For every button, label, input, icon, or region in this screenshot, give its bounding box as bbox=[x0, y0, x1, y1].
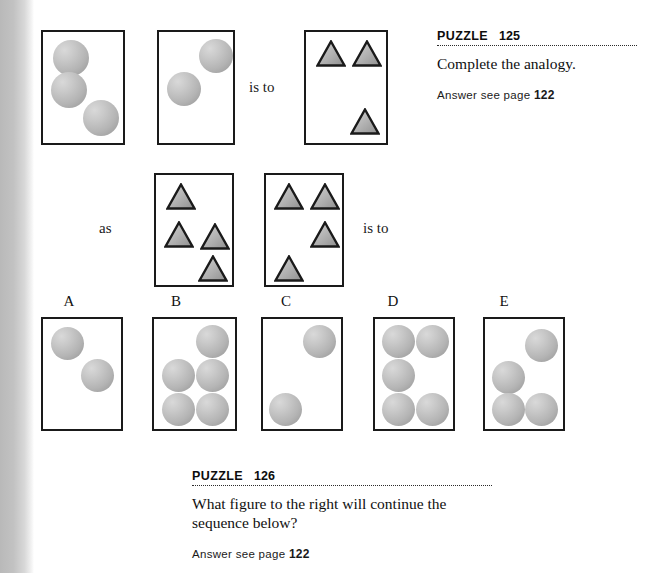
puzzle-125-heading: PUZZLE 125 bbox=[437, 29, 637, 43]
option-box-b[interactable] bbox=[152, 317, 237, 431]
triangle-shape bbox=[164, 221, 194, 248]
puzzle-126-question-line1: What figure to the right will continue t… bbox=[192, 494, 492, 513]
option-box-d[interactable] bbox=[373, 317, 455, 431]
sphere-shape bbox=[51, 72, 87, 108]
sphere-shape bbox=[416, 325, 449, 358]
sphere-shape bbox=[492, 393, 525, 426]
sphere-shape bbox=[199, 39, 233, 73]
option-box-c[interactable] bbox=[261, 317, 343, 431]
sphere-shape bbox=[196, 359, 229, 392]
puzzle-126-heading: PUZZLE 126 bbox=[192, 469, 492, 483]
puzzle-126-answer-page: 122 bbox=[289, 547, 310, 561]
triangle-shape bbox=[200, 223, 230, 250]
triangle-shape bbox=[352, 40, 382, 67]
sphere-shape bbox=[167, 72, 201, 106]
relation-is-to-top: is to bbox=[249, 79, 274, 96]
sphere-shape bbox=[492, 361, 525, 394]
puzzle-126-question: What figure to the right will continue t… bbox=[192, 494, 492, 532]
sphere-shape bbox=[382, 325, 415, 358]
puzzle-126-number: 126 bbox=[254, 469, 275, 483]
puzzle-126-question-line2: sequence below? bbox=[192, 513, 492, 532]
triangle-shape bbox=[316, 40, 346, 67]
puzzle-page: is to as is to ABCDE PUZZLE 125 Complete… bbox=[0, 0, 652, 573]
triangle-shape bbox=[198, 255, 228, 282]
option-box-a[interactable] bbox=[41, 317, 123, 431]
option-label-a: A bbox=[49, 293, 89, 310]
analogy-box-2[interactable] bbox=[157, 30, 235, 145]
puzzle-126-rule bbox=[192, 485, 492, 486]
sphere-shape bbox=[416, 393, 449, 426]
option-label-e: E bbox=[484, 293, 524, 310]
puzzle-125-number: 125 bbox=[499, 29, 520, 43]
sphere-shape bbox=[51, 327, 84, 360]
puzzle-125-label: PUZZLE bbox=[437, 29, 488, 43]
analogy-box-4[interactable] bbox=[154, 173, 234, 287]
puzzle-125-answer-ref: Answer see page 122 bbox=[437, 88, 637, 102]
triangle-shape bbox=[350, 108, 380, 135]
sphere-shape bbox=[382, 393, 415, 426]
puzzle-125-rule bbox=[437, 45, 637, 46]
puzzle-125-block: PUZZLE 125 Complete the analogy. Answer … bbox=[437, 29, 637, 102]
sphere-shape bbox=[303, 325, 336, 358]
relation-as: as bbox=[99, 220, 112, 237]
sphere-shape bbox=[83, 100, 119, 136]
sphere-shape bbox=[525, 393, 558, 426]
triangle-shape bbox=[310, 221, 340, 248]
sphere-shape bbox=[162, 359, 195, 392]
sphere-shape bbox=[53, 40, 89, 76]
option-label-d: D bbox=[373, 293, 413, 310]
puzzle-126-answer-prefix: Answer see page bbox=[192, 548, 285, 560]
sphere-shape bbox=[196, 393, 229, 426]
triangle-shape bbox=[274, 183, 304, 210]
puzzle-126-label: PUZZLE bbox=[192, 469, 243, 483]
analogy-box-3[interactable] bbox=[304, 30, 388, 145]
analogy-box-5[interactable] bbox=[264, 173, 344, 287]
sphere-shape bbox=[525, 329, 558, 362]
puzzle-126-answer-ref: Answer see page 122 bbox=[192, 547, 492, 561]
sphere-shape bbox=[382, 359, 415, 392]
puzzle-125-answer-prefix: Answer see page bbox=[437, 89, 530, 101]
sphere-shape bbox=[162, 393, 195, 426]
option-label-c: C bbox=[266, 293, 306, 310]
puzzle-125-answer-page: 122 bbox=[534, 88, 555, 102]
puzzle-125-question: Complete the analogy. bbox=[437, 54, 637, 73]
triangle-shape bbox=[166, 183, 196, 210]
relation-is-to-middle: is to bbox=[363, 220, 388, 237]
triangle-shape bbox=[310, 183, 340, 210]
option-label-b: B bbox=[156, 293, 196, 310]
triangle-shape bbox=[274, 255, 304, 282]
option-box-e[interactable] bbox=[483, 317, 565, 431]
analogy-box-1[interactable] bbox=[41, 30, 125, 145]
sphere-shape bbox=[81, 359, 114, 392]
puzzle-126-block: PUZZLE 126 What figure to the right will… bbox=[192, 469, 492, 561]
sphere-shape bbox=[196, 325, 229, 358]
sphere-shape bbox=[269, 393, 302, 426]
